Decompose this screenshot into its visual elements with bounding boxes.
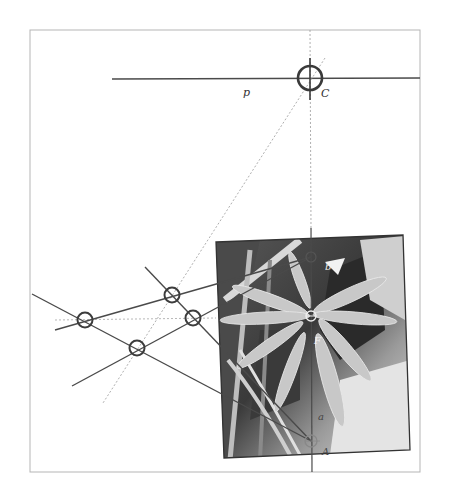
label-F: F <box>313 335 322 346</box>
line-p <box>112 78 420 79</box>
label-A: A <box>321 446 329 457</box>
leaf-photo <box>210 230 415 465</box>
label-b: b <box>325 261 331 272</box>
label-C: C <box>321 87 330 100</box>
perspective-diagram: p C b F a A <box>0 0 452 501</box>
label-a: a <box>318 411 324 422</box>
intersection-markers <box>78 288 201 356</box>
label-p: p <box>243 86 250 99</box>
